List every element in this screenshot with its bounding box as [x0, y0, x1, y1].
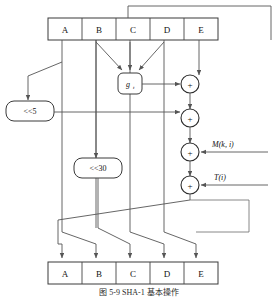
bottom-cell-e-label: E: [198, 269, 204, 279]
adder-1: +: [181, 75, 199, 93]
g-function-block: g t: [118, 73, 142, 94]
wire-right-feedback-rail: [190, 200, 249, 232]
top-cell-a-label: A: [62, 25, 69, 35]
figure-canvas: A B C D E g: [0, 0, 278, 298]
shift-left-5-label: <<5: [23, 107, 36, 116]
bottom-cell-c-label: C: [130, 269, 136, 279]
adder-4-label: +: [187, 181, 192, 191]
adder-1-label: +: [187, 80, 192, 90]
wire-a-to-shift5: [28, 62, 62, 100]
top-cell-b-label: B: [96, 25, 102, 35]
adder-3: +: [181, 143, 199, 161]
wire-result-to-bottom-a: [58, 232, 62, 258]
figure-caption: 图 5-9 SHA-1 基本操作: [99, 287, 178, 297]
shift-left-30-label: <<30: [89, 164, 106, 173]
shift-left-30-block: <<30: [74, 158, 122, 178]
wire-adder4-output: [58, 194, 190, 232]
wires-bcd-to-g: [96, 42, 164, 70]
top-cell-d-label: D: [164, 25, 171, 35]
adder-2-label: +: [187, 114, 192, 124]
wire-d-to-bottom-e: [164, 232, 196, 258]
adder-4: +: [181, 176, 199, 194]
bottom-register-row: A B C D E: [48, 262, 218, 284]
bottom-cell-a-label: A: [62, 269, 69, 279]
wire-c-to-bottom-d: [130, 232, 164, 258]
adder-2: +: [181, 109, 199, 127]
wire-a-to-bottom-b: [62, 232, 96, 258]
top-cell-c-label: C: [130, 25, 136, 35]
bottom-cell-b-label: B: [96, 269, 102, 279]
round-constant-input-label: T(i): [214, 173, 226, 182]
adder-3-label: +: [187, 148, 192, 158]
g-function-label: g: [126, 80, 130, 89]
bottom-cell-d-label: D: [164, 269, 171, 279]
sha1-round-diagram: A B C D E g: [0, 0, 278, 298]
top-register-row: A B C D E: [48, 18, 218, 40]
message-word-input-label: M(k, i): [211, 140, 234, 149]
top-cell-e-label: E: [198, 25, 204, 35]
shift-left-5-block: <<5: [6, 101, 54, 121]
